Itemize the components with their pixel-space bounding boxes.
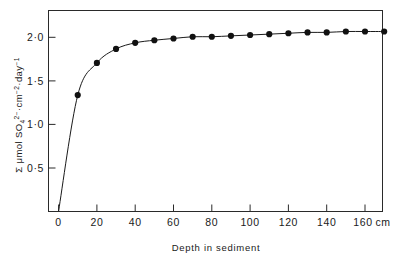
x-axis-tick-labels: 0 20 40 60 80 100 120 140 160 cm	[55, 216, 390, 228]
x-tick-label-100: 100	[240, 216, 259, 228]
y-axis-title: Σ μmol SO42−·cm−2·day−1	[13, 57, 26, 172]
x-tick-label-60: 60	[167, 216, 180, 228]
data-point	[381, 28, 387, 34]
svg-text:Σ μmol SO42−·cm−2·day−1: Σ μmol SO42−·cm−2·day−1	[13, 57, 26, 172]
y-title-cm-exp: −2	[13, 86, 20, 94]
y-title-day-exp: −1	[13, 57, 20, 65]
data-point	[132, 40, 138, 46]
data-point	[362, 28, 368, 34]
y-title-day: ·day	[13, 66, 24, 86]
data-point	[228, 33, 234, 39]
data-point	[190, 34, 196, 40]
data-point	[151, 37, 157, 43]
x-tick-label-20: 20	[90, 216, 103, 228]
y-tick-label-0-5: 0·5	[27, 162, 44, 174]
y-tick-label-1-0: 1·0	[27, 118, 44, 130]
data-point	[170, 35, 176, 41]
data-point	[266, 31, 272, 37]
data-point	[209, 34, 215, 40]
y-tick-label-2-0: 2·0	[27, 31, 44, 43]
x-tick-label-160: 160	[353, 216, 372, 228]
data-point	[343, 28, 349, 34]
y-axis-ticks	[49, 37, 56, 168]
data-point	[285, 30, 291, 36]
x-axis-ticks	[59, 205, 365, 212]
data-point	[94, 60, 100, 66]
x-tick-label-80: 80	[205, 216, 218, 228]
plot-frame	[49, 11, 383, 212]
x-axis-unit-label: cm	[376, 216, 391, 228]
x-tick-label-40: 40	[129, 216, 142, 228]
data-series-group	[59, 28, 388, 211]
data-point	[75, 92, 81, 98]
data-point	[113, 46, 119, 52]
y-tick-label-1-5: 1·5	[27, 75, 44, 87]
y-title-so4-charge: 2−	[13, 111, 20, 119]
data-markers	[75, 28, 388, 98]
data-point	[324, 29, 330, 35]
data-point	[247, 32, 253, 38]
x-tick-label-120: 120	[279, 216, 298, 228]
x-tick-label-140: 140	[317, 216, 336, 228]
y-title-cm: ·cm	[13, 94, 24, 111]
sulfate-depth-chart: 2·0 1·5 1·0 0·5 0 20 40 60 80 100 120 1	[0, 0, 400, 266]
figure-container: 2·0 1·5 1·0 0·5 0 20 40 60 80 100 120 1	[0, 0, 400, 266]
data-curve	[59, 31, 385, 211]
y-title-units-prefix: μmol SO	[13, 123, 24, 163]
x-axis-title: Depth in sediment	[172, 242, 260, 253]
x-tick-label-0: 0	[55, 216, 61, 228]
y-axis-tick-labels: 2·0 1·5 1·0 0·5	[27, 31, 44, 174]
data-point	[304, 29, 310, 35]
